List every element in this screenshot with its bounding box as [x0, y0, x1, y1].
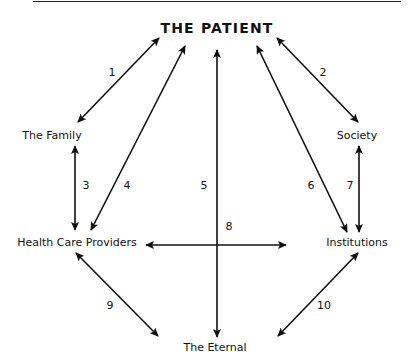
label-2: 2	[320, 66, 327, 79]
label-7: 7	[347, 179, 354, 192]
node-health-care-providers: Health Care Providers	[17, 236, 137, 249]
node-institutions: Institutions	[326, 236, 387, 249]
arrow-1	[78, 38, 159, 122]
node-patient: THE PATIENT	[160, 20, 273, 36]
arrow-6	[257, 46, 347, 232]
arrow-9	[76, 253, 158, 336]
node-family: The Family	[22, 129, 81, 142]
label-10: 10	[317, 299, 331, 312]
label-8: 8	[226, 220, 233, 233]
label-9: 9	[107, 299, 114, 312]
node-society: Society	[337, 129, 377, 142]
arrow-4	[91, 46, 185, 230]
label-3: 3	[83, 179, 90, 192]
node-eternal: The Eternal	[183, 341, 246, 354]
label-4: 4	[124, 179, 131, 192]
arrow-2	[277, 38, 358, 122]
label-6: 6	[308, 179, 315, 192]
label-1: 1	[109, 66, 116, 79]
label-5: 5	[201, 179, 208, 192]
arrow-10	[278, 253, 358, 336]
